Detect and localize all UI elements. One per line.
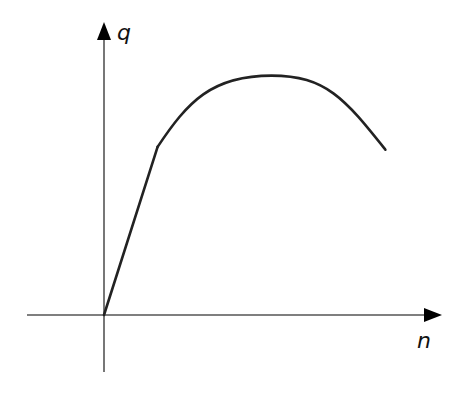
x-axis-label: n — [417, 328, 431, 353]
diagram-canvas: q n — [0, 0, 466, 400]
curve-arc-segment — [158, 76, 386, 150]
y-axis-arrowhead — [97, 22, 111, 40]
x-axis-arrowhead — [424, 308, 442, 322]
y-axis-label: q — [117, 20, 131, 45]
curve-linear-segment — [104, 147, 158, 315]
